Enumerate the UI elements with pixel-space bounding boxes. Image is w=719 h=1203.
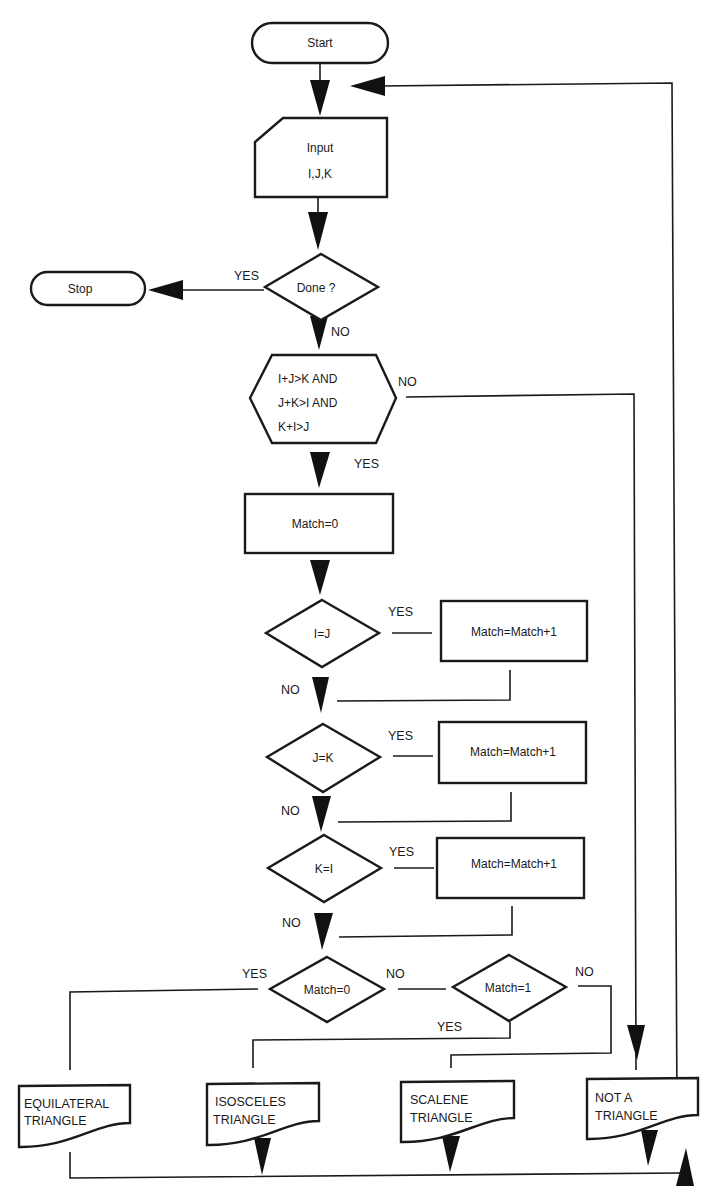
arrowhead-down-icon (310, 316, 328, 350)
connectors (70, 62, 694, 1186)
arrowhead-down-icon (312, 677, 329, 713)
node-done-label: Done ? (297, 281, 336, 295)
arrowhead-down-icon (627, 1025, 645, 1060)
arrowhead-left-icon (148, 280, 183, 300)
label-jk-yes: YES (388, 729, 413, 743)
node-scalene[interactable]: SCALENE TRIANGLE (401, 1081, 514, 1142)
label-match0-no: NO (386, 967, 405, 981)
label-ki-yes: YES (389, 845, 414, 859)
node-input[interactable]: Input I,J,K (255, 118, 387, 197)
edge-match1-isosceles (253, 1022, 510, 1068)
node-ki[interactable]: K=I (268, 835, 381, 902)
arrowhead-down-icon (442, 1136, 460, 1172)
node-inc1-label: Match=Match+1 (471, 625, 557, 639)
node-not-triangle-line2: TRIANGLE (595, 1109, 658, 1123)
node-match-init[interactable]: Match=0 (245, 494, 393, 553)
arrowhead-up-icon (676, 1148, 694, 1186)
node-equilateral-line1: EQUILATERAL (24, 1097, 109, 1111)
node-not-triangle[interactable]: NOT A TRIANGLE (587, 1078, 698, 1139)
node-match1-label: Match=1 (485, 981, 532, 995)
label-match1-yes: YES (437, 1020, 462, 1034)
edge-inc3-match0 (339, 906, 512, 937)
node-triangle-check[interactable]: I+J>K AND J+K>I AND K+I>J (250, 355, 396, 443)
flowchart-canvas: Start Input I,J,K Done ? YES NO Stop I+J… (0, 0, 719, 1203)
label-jk-no: NO (281, 804, 300, 818)
edge-match0-equilateral (70, 989, 258, 1070)
arrowhead-down-icon (310, 80, 330, 116)
node-match-init-label: Match=0 (292, 517, 339, 531)
edge-loop-back (380, 83, 677, 1110)
node-stop-label: Stop (68, 282, 93, 296)
node-equilateral[interactable]: EQUILATERAL TRIANGLE (19, 1085, 130, 1147)
node-jk[interactable]: J=K (267, 724, 380, 792)
node-inc2-label: Match=Match+1 (470, 745, 556, 759)
arrowhead-down-icon (308, 212, 328, 250)
label-ki-no: NO (282, 916, 301, 930)
label-ij-yes: YES (388, 605, 413, 619)
node-input-line1: Input (307, 141, 334, 155)
node-scalene-line2: TRIANGLE (410, 1111, 473, 1125)
label-match1-no: NO (575, 965, 594, 979)
node-done[interactable]: Done ? (265, 254, 378, 320)
node-inc1[interactable]: Match=Match+1 (441, 601, 587, 661)
node-isosceles-line2: TRIANGLE (213, 1113, 276, 1127)
edge-inc1-jk (337, 670, 510, 701)
node-start[interactable]: Start (252, 23, 388, 63)
label-done-yes: YES (234, 269, 259, 283)
node-isosceles[interactable]: ISOSCELES TRIANGLE (207, 1083, 319, 1145)
arrowhead-down-icon (641, 1130, 658, 1166)
label-done-no: NO (331, 325, 350, 339)
node-ij[interactable]: I=J (266, 600, 379, 667)
node-check-line2: J+K>I AND (278, 396, 338, 410)
edge-bottom-bus (70, 1152, 682, 1178)
label-ij-no: NO (281, 683, 300, 697)
node-check-line1: I+J>K AND (278, 372, 338, 386)
node-isosceles-line1: ISOSCELES (215, 1095, 286, 1109)
arrowhead-down-icon (310, 560, 330, 595)
label-match0-yes: YES (242, 967, 267, 981)
node-input-line2: I,J,K (308, 167, 332, 181)
node-not-triangle-line1: NOT A (595, 1091, 633, 1105)
node-start-label: Start (307, 36, 333, 50)
label-check-yes: YES (354, 457, 379, 471)
node-inc3-label: Match=Match+1 (471, 857, 557, 871)
arrowhead-down-icon (254, 1138, 271, 1175)
arrowhead-left-icon (350, 76, 385, 96)
node-scalene-line1: SCALENE (410, 1093, 468, 1107)
node-check-line3: K+I>J (278, 420, 309, 434)
node-ki-label: K=I (315, 862, 333, 876)
label-check-no: NO (398, 375, 417, 389)
node-match0-label: Match=0 (304, 983, 351, 997)
node-inc2[interactable]: Match=Match+1 (439, 722, 586, 783)
node-match1[interactable]: Match=1 (453, 955, 566, 1021)
arrowhead-down-icon (310, 452, 330, 488)
node-match0[interactable]: Match=0 (270, 957, 384, 1022)
node-inc3[interactable]: Match=Match+1 (437, 838, 584, 898)
node-stop[interactable]: Stop (31, 272, 145, 305)
node-jk-label: J=K (312, 751, 333, 765)
node-ij-label: I=J (314, 627, 330, 641)
edge-inc2-ki (338, 792, 511, 822)
arrowhead-down-icon (314, 913, 333, 950)
node-equilateral-line2: TRIANGLE (24, 1114, 87, 1128)
arrowhead-down-icon (312, 796, 331, 832)
